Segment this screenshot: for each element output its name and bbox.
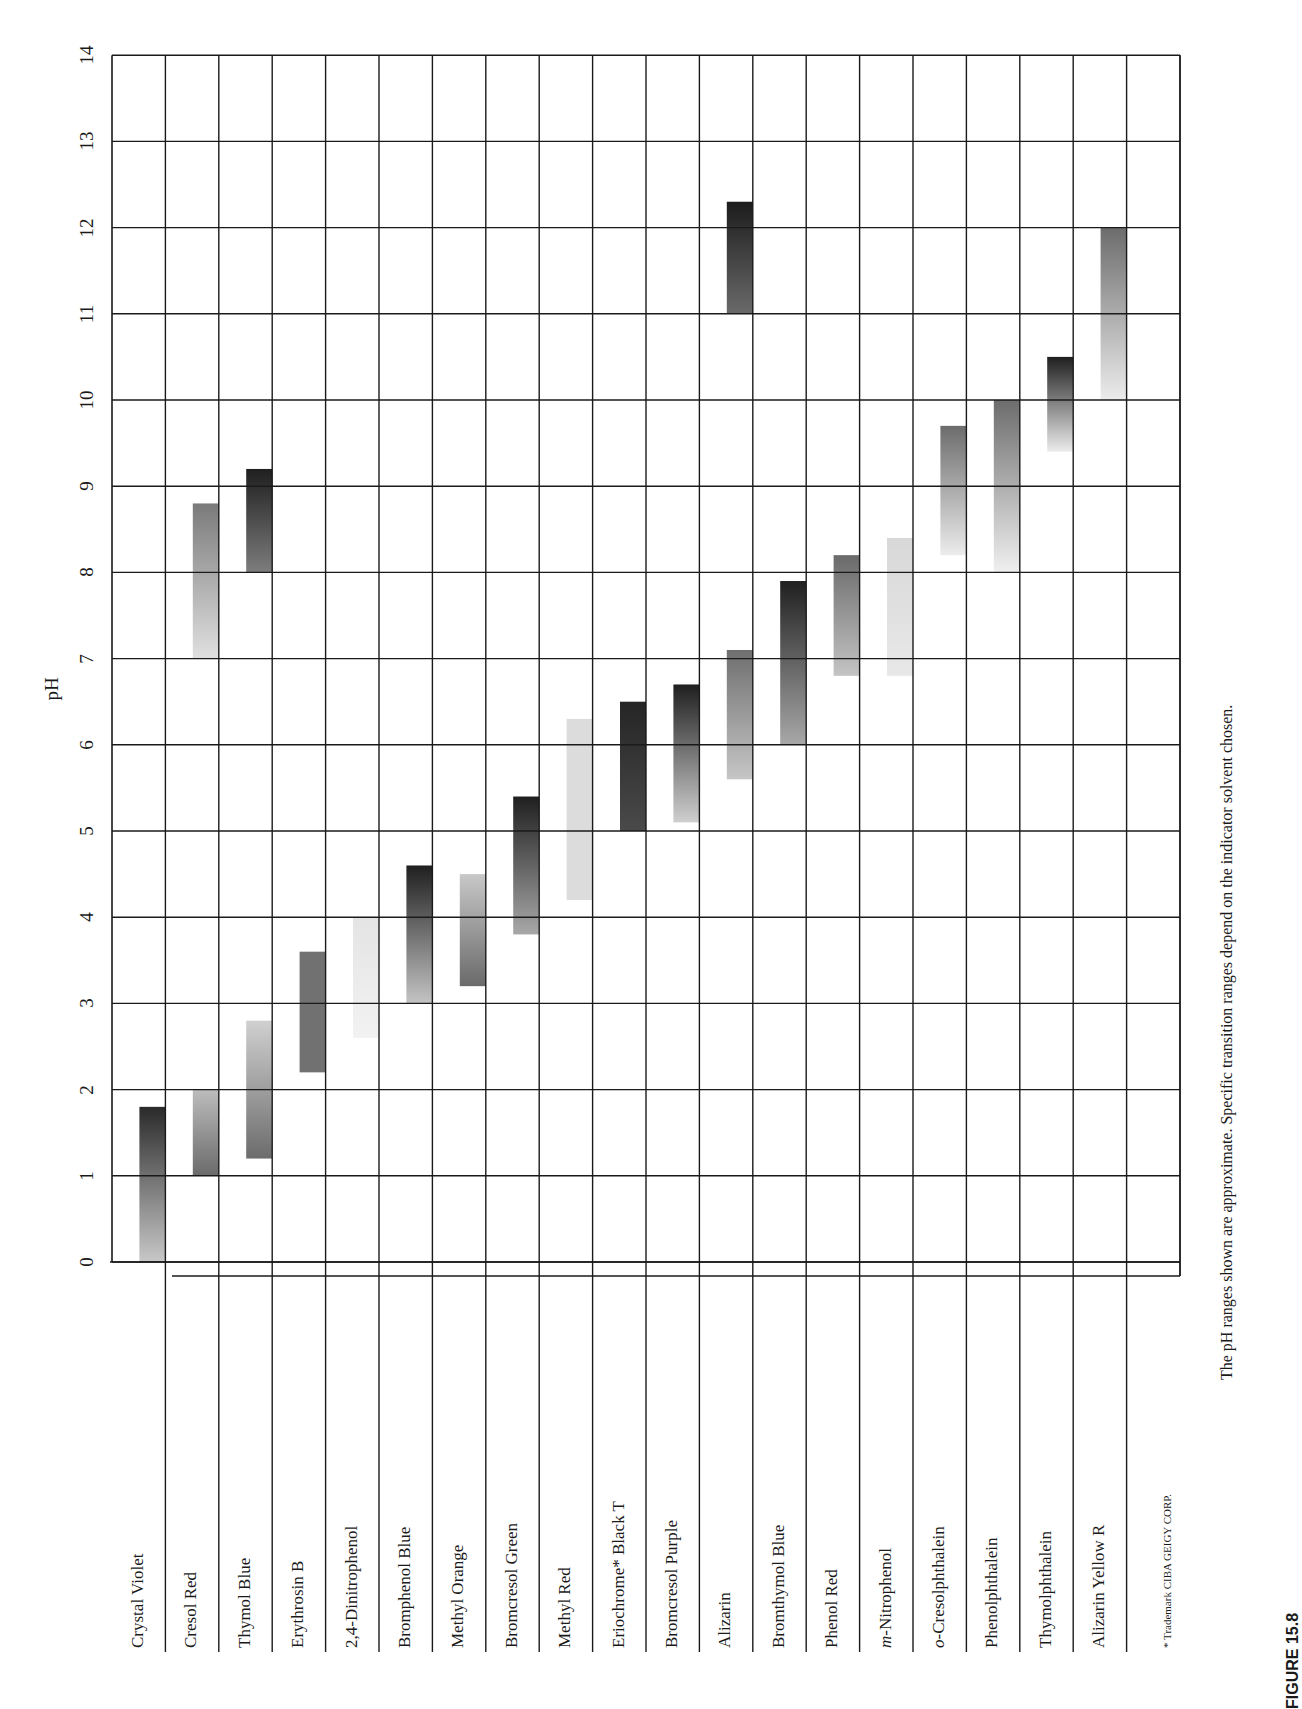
range-bar (139, 1107, 165, 1262)
indicator-label: Methyl Orange (448, 1545, 468, 1648)
range-bar (887, 538, 913, 676)
range-bar (193, 503, 219, 658)
y-tick-label: 10 (76, 385, 98, 415)
indicator-label: Alizarin (715, 1592, 735, 1648)
range-bar (246, 469, 272, 572)
y-tick-label: 9 (76, 471, 98, 501)
range-bar (780, 581, 806, 745)
y-axis-label: pH (41, 677, 63, 700)
indicator-label: Alizarin Yellow R (1089, 1525, 1109, 1648)
y-tick-label: 13 (76, 126, 98, 156)
y-tick-label: 5 (76, 816, 98, 846)
range-bar (673, 684, 699, 822)
y-tick-label: 11 (76, 299, 98, 329)
indicator-label: m-Nitrophenol (876, 1548, 896, 1648)
range-bar (727, 650, 753, 779)
y-tick-label: 1 (76, 1161, 98, 1191)
range-bar (460, 874, 486, 986)
y-tick-label: 8 (76, 557, 98, 587)
range-bar (834, 555, 860, 676)
y-tick-label: 12 (76, 213, 98, 243)
y-tick-label: 7 (76, 644, 98, 674)
indicator-label: Thymol Blue (235, 1558, 255, 1648)
indicator-label: Bromcresol Purple (662, 1520, 682, 1648)
trademark-footnote: * Trademark CIBA GEIGY CORP. (1161, 1494, 1173, 1648)
range-bar (406, 865, 432, 1003)
y-tick-label: 6 (76, 730, 98, 760)
range-bar (353, 917, 379, 1038)
range-bar (513, 797, 539, 935)
range-bar (567, 719, 593, 900)
range-bar (940, 426, 966, 555)
y-tick-label: 0 (76, 1247, 98, 1277)
y-tick-label: 14 (76, 40, 98, 70)
range-bar (727, 202, 753, 314)
indicator-label: Cresol Red (181, 1572, 201, 1648)
indicator-label: Bromphenol Blue (395, 1527, 415, 1648)
indicator-label: 2,4-Dinitrophenol (342, 1526, 362, 1648)
indicator-label: o-Cresolphthalein (929, 1526, 949, 1648)
indicator-label: Crystal Violet (128, 1553, 148, 1648)
range-bar (300, 952, 326, 1073)
indicator-label: Phenol Red (822, 1569, 842, 1648)
indicator-label: Erythrosin B (288, 1561, 308, 1648)
indicator-label: Bromthymol Blue (769, 1525, 789, 1648)
range-bar (620, 702, 646, 831)
y-tick-label: 3 (76, 988, 98, 1018)
indicator-label: Thymolphthalein (1036, 1531, 1056, 1648)
indicator-label: Phenolphthalein (982, 1538, 1002, 1648)
approximation-note: The pH ranges shown are approximate. Spe… (1218, 705, 1236, 1380)
indicator-label: Methyl Red (555, 1567, 575, 1648)
y-tick-label: 2 (76, 1075, 98, 1105)
range-bar (1047, 357, 1073, 452)
y-tick-label: 4 (76, 902, 98, 932)
indicator-label: Eriochrome* Black T (609, 1501, 629, 1648)
figure-caption: FIGURE 15.8 (1284, 1613, 1302, 1709)
indicator-label: Bromcresol Green (502, 1523, 522, 1648)
range-bar (193, 1090, 219, 1176)
